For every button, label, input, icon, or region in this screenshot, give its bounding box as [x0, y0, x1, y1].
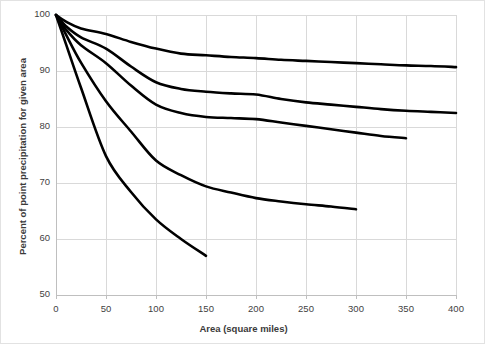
x-tick-label: 250 — [286, 303, 326, 314]
x-tick-label: 300 — [336, 303, 376, 314]
y-tick-label: 90 — [24, 64, 50, 75]
y-tick-label: 60 — [24, 232, 50, 243]
y-tick-label: 70 — [24, 176, 50, 187]
x-tick-label: 0 — [36, 303, 76, 314]
y-tick-label: 100 — [24, 8, 50, 19]
x-tick-label: 100 — [136, 303, 176, 314]
x-axis-title: Area (square miles) — [1, 323, 485, 334]
y-axis-title: Percent of point precipitation for given… — [17, 32, 28, 282]
y-tick-label: 80 — [24, 120, 50, 131]
x-tick-label: 200 — [236, 303, 276, 314]
plot-area — [1, 1, 485, 344]
x-tick-label: 350 — [386, 303, 426, 314]
precipitation-area-chart: 5060708090100 050100150200250300350400 A… — [0, 0, 485, 344]
x-tick-label: 150 — [186, 303, 226, 314]
data-line-curve-5 — [56, 15, 206, 256]
x-tick-label: 400 — [436, 303, 476, 314]
x-tick-label: 50 — [86, 303, 126, 314]
y-tick-label: 50 — [24, 288, 50, 299]
